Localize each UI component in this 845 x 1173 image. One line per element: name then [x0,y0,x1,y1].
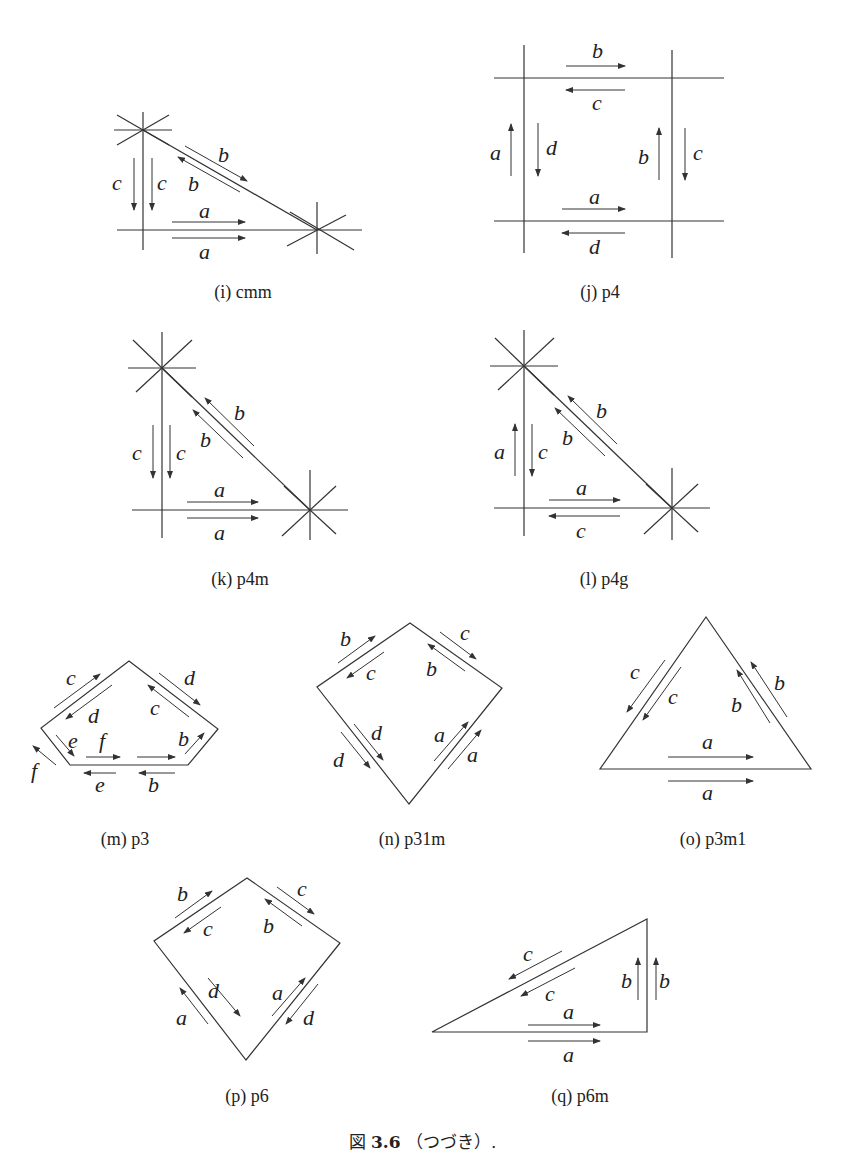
edge-label: c [150,695,160,720]
edge-label: b [638,144,649,169]
edge-label: e [95,772,105,797]
edge-label: a [214,520,225,545]
edge-label: c [576,518,586,543]
figure-3-6-diagrams: b b c c a a (i) cmm b c a d b c a d (j) … [0,0,845,1173]
edge-label: c [176,440,186,465]
panel-j-p4: b c a d b c a d (j) p4 [490,38,724,303]
edge-label: a [176,1005,187,1030]
edge-label: d [333,747,345,772]
edge-label: b [218,142,229,167]
edge-label: d [371,720,383,745]
edge-label: a [563,999,574,1024]
edge-label: b [731,692,742,717]
edge-label: a [434,722,445,747]
panel-l-p4g: b b a c a c (l) p4g [490,330,710,590]
edge-label: a [467,742,478,767]
edge-label: a [563,1042,574,1067]
edge-label: a [214,477,225,502]
edge-label: d [88,703,100,728]
edge-label: c [132,440,142,465]
edge-label: a [702,729,713,754]
edge-label: b [596,398,607,423]
figure-caption: 図 3.6 （つづき）. [0,1128,845,1153]
figure-caption-prefix: 図 [349,1132,366,1152]
figure-caption-text: （つづき）. [406,1132,496,1152]
edge-label: b [200,427,211,452]
panel-caption: (l) p4g [580,569,629,590]
edge-label: b [659,968,670,993]
edge-label: a [576,475,587,500]
edge-label: c [366,660,376,685]
panel-caption: (j) p4 [580,282,620,303]
panel-k-p4m: b b c c a a (k) p4m [128,332,348,590]
edge-label: b [177,881,188,906]
edge-label: c [157,170,167,195]
edge-label: d [546,135,558,160]
edge-label: b [426,656,437,681]
panel-caption: (q) p6m [551,1086,609,1107]
panel-caption: (k) p4m [211,569,269,590]
panel-m-p3: c d d c e f b f e b (m) p3 [31,661,218,850]
edge-label: c [545,981,555,1006]
panel-caption: (o) p3m1 [680,829,747,850]
edge-label: a [199,198,210,223]
edge-label: c [630,659,640,684]
figure-caption-number: 3.6 [371,1132,401,1152]
edge-label: b [774,670,785,695]
edge-label: c [592,90,602,115]
edge-label: b [148,772,159,797]
edge-label: a [589,184,600,209]
edge-label: f [31,758,40,783]
panel-caption: (n) p31m [379,829,446,850]
edge-label: d [589,234,601,259]
edge-label: b [592,38,603,63]
panel-p-p6: b c c b d a a d (p) p6 [154,876,340,1107]
edge-label: b [178,726,189,751]
edge-label: c [66,665,76,690]
edge-label: b [263,913,274,938]
edge-label: a [494,439,505,464]
edge-label: c [693,140,703,165]
edge-label: d [303,1005,315,1030]
edge-label: d [184,665,196,690]
panel-o-p3m1: c c b b a a (o) p3m1 [600,617,811,850]
edge-label: e [68,728,78,753]
edge-label: d [208,978,220,1003]
panel-i-cmm: b b c c a a (i) cmm [112,112,362,303]
edge-label: a [199,239,210,264]
edge-label: b [340,626,351,651]
edge-label: c [668,684,678,709]
edge-label: a [272,980,283,1005]
edge-label: a [702,780,713,805]
edge-label: b [188,171,199,196]
panel-n-p31m: b c c b d d a a (n) p31m [317,620,502,850]
panel-caption: (p) p6 [225,1086,269,1107]
panel-q-p6m: c c b b a a (q) p6m [432,919,670,1107]
edge-label: b [562,425,573,450]
edge-label: a [490,140,501,165]
edge-label: c [112,170,122,195]
edge-label: b [621,968,632,993]
edge-label: c [203,916,213,941]
edge-label: b [234,400,245,425]
panel-caption: (i) cmm [214,282,271,303]
panel-caption: (m) p3 [101,829,150,850]
edge-label: c [297,876,307,901]
edge-label: c [523,941,533,966]
edge-label: c [460,620,470,645]
edge-label: f [99,728,108,753]
edge-label: c [538,439,548,464]
